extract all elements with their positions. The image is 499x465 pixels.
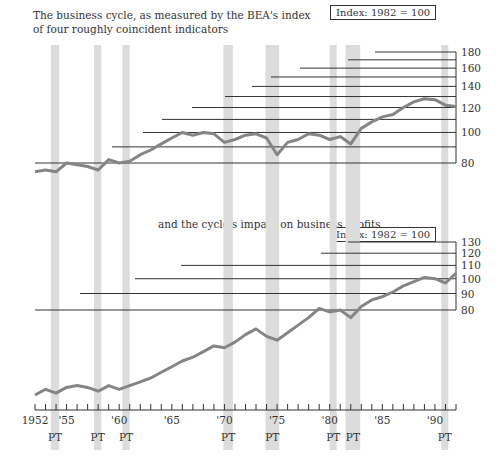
pt-label: PT [221,431,235,443]
pt-label: PT [438,431,452,443]
recession-bar [223,45,232,450]
recession-bars [51,45,448,450]
x-tick-label: '65 [164,414,180,426]
recession-bar [330,45,337,450]
pt-label: PT [265,431,279,443]
x-tick-label: 1952 [22,414,49,426]
y-tick-label: 80 [461,157,474,169]
y-tick-label: 100 [461,126,481,138]
y-tick-label: 120 [461,247,481,259]
pt-label: PT [326,431,340,443]
y-tick-label: 90 [461,288,474,300]
y-tick-label: 130 [461,236,481,248]
top-chart-gridlines: 18016014012010080 [35,46,481,169]
y-tick-label: 180 [461,46,481,58]
pt-label: PT [346,431,360,443]
recession-bar [265,45,279,450]
y-tick-label: 100 [461,273,481,285]
y-tick-label: 120 [461,102,481,114]
y-tick-label: 140 [461,80,481,92]
x-axis: 1952'55'60'65'70'75'80'85'90 [22,404,456,426]
x-tick-label: '75 [269,414,285,426]
business-cycle-chart: 18016014012010080 1301201101009080 1952'… [0,0,499,465]
recession-bar [51,45,59,450]
pt-label: PT [48,431,62,443]
y-tick-label: 80 [461,304,474,316]
pt-label: PT [119,431,133,443]
y-tick-label: 110 [461,259,481,271]
recession-bar [345,45,360,450]
x-tick-label: '90 [427,414,443,426]
pt-label: PT [91,431,105,443]
x-tick-label: '60 [111,414,127,426]
y-tick-label: 160 [461,62,481,74]
x-tick-label: '70 [216,414,232,426]
peak-trough-labels: PTPTPTPTPTPTPTPT [48,431,452,443]
bottom-chart-gridlines: 1301201101009080 [35,236,481,316]
x-tick-label: '80 [322,414,338,426]
x-tick-label: '85 [374,414,390,426]
x-tick-label: '55 [58,414,74,426]
